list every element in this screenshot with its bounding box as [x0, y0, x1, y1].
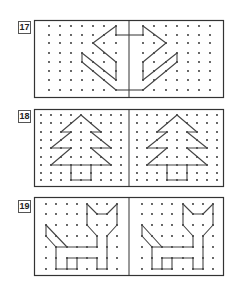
grid-dot — [70, 25, 72, 27]
grid-dot — [176, 89, 178, 91]
grid-dot — [66, 235, 68, 237]
grid-dot — [86, 268, 88, 270]
grid-dot — [50, 114, 52, 116]
grid-dot — [186, 139, 188, 141]
grid-dot — [40, 172, 42, 174]
grid-dot — [59, 79, 61, 81]
grid-dot — [115, 52, 117, 54]
grid-dot — [59, 25, 61, 27]
grid-dot — [176, 131, 178, 133]
grid-dot — [66, 224, 68, 226]
grid-dot — [141, 213, 143, 215]
grid-dot — [92, 89, 94, 91]
grid-dot — [161, 235, 163, 237]
grid-dot — [206, 179, 208, 181]
grid-dot — [50, 131, 52, 133]
grid-dot — [96, 203, 98, 205]
grid-dot — [90, 114, 92, 116]
grid-dot — [146, 131, 148, 133]
grid-dot — [80, 147, 82, 149]
grid-dot — [151, 213, 153, 215]
grid-dot — [59, 52, 61, 54]
grid-dot — [96, 224, 98, 226]
grid-dot — [110, 156, 112, 158]
grid-dot — [59, 70, 61, 72]
grid-dot — [45, 203, 47, 205]
grid-dot — [206, 122, 208, 124]
grid-dot — [60, 172, 62, 174]
grid-dot — [48, 42, 50, 44]
grid-dot — [81, 70, 83, 72]
grid-dot — [165, 34, 167, 36]
grid-dot — [92, 52, 94, 54]
grid-dot — [120, 156, 122, 158]
grid-dot — [81, 79, 83, 81]
grid-dot — [70, 34, 72, 36]
grid-dot — [48, 79, 50, 81]
grid-dot — [216, 172, 218, 174]
grid-dot — [206, 131, 208, 133]
grid-dot — [59, 34, 61, 36]
grid-dot — [187, 34, 189, 36]
grid-dot — [110, 172, 112, 174]
grid-dot — [55, 224, 57, 226]
grid-dot — [100, 179, 102, 181]
grid-dot — [110, 139, 112, 141]
grid-dot — [209, 25, 211, 27]
grid-dot — [216, 156, 218, 158]
grid-dot — [48, 70, 50, 72]
grid-dot — [209, 61, 211, 63]
grid-dot — [176, 70, 178, 72]
grid-dot — [212, 235, 214, 237]
grid-dot — [216, 131, 218, 133]
grid-dot — [40, 156, 42, 158]
grid-dot — [209, 79, 211, 81]
grid-dot — [212, 268, 214, 270]
grid-dot — [187, 89, 189, 91]
grid-dot — [70, 139, 72, 141]
grid-dot — [116, 246, 118, 248]
grid-dot — [209, 70, 211, 72]
grid-dot — [156, 122, 158, 124]
grid-dot — [153, 61, 155, 63]
grid-dot — [156, 179, 158, 181]
grid-dot — [171, 203, 173, 205]
grid-dot — [120, 122, 122, 124]
grid-dot — [45, 213, 47, 215]
grid-dot — [141, 246, 143, 248]
grid-dot — [206, 172, 208, 174]
grid-dot — [198, 89, 200, 91]
grid-dot — [176, 42, 178, 44]
grid-dot — [40, 139, 42, 141]
dot-grid-panel — [34, 20, 224, 98]
grid-dot — [198, 52, 200, 54]
grid-dot — [103, 25, 105, 27]
grid-dot — [198, 70, 200, 72]
grid-dot — [196, 179, 198, 181]
grid-dot — [146, 179, 148, 181]
grid-dot — [198, 25, 200, 27]
grid-dot — [187, 25, 189, 27]
grid-dot — [182, 235, 184, 237]
grid-dot — [209, 52, 211, 54]
grid-dot — [81, 34, 83, 36]
grid-dot — [120, 179, 122, 181]
grid-dot — [156, 114, 158, 116]
grid-dot — [136, 139, 138, 141]
grid-dot — [100, 172, 102, 174]
grid-dot — [116, 257, 118, 259]
grid-dot — [146, 122, 148, 124]
grid-dot — [196, 114, 198, 116]
grid-dot — [171, 224, 173, 226]
grid-dot — [48, 25, 50, 27]
grid-dot — [202, 224, 204, 226]
dot-grid-panel — [34, 109, 224, 187]
grid-dot — [136, 131, 138, 133]
grid-dot — [216, 139, 218, 141]
exercise-number-label: 19 — [18, 200, 31, 213]
grid-dot — [146, 172, 148, 174]
grid-dot — [142, 52, 144, 54]
grid-dot — [192, 224, 194, 226]
grid-dot — [165, 79, 167, 81]
grid-dot — [216, 179, 218, 181]
